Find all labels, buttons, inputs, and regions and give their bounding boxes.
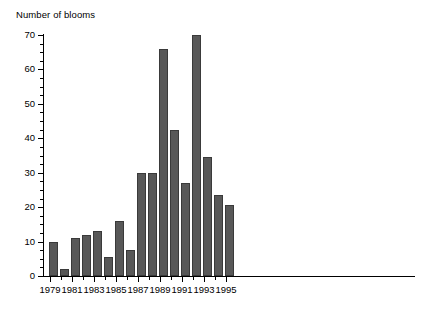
x-tick-minor (61, 277, 62, 280)
y-tick-minor (40, 44, 43, 45)
y-tick-minor (40, 164, 43, 165)
y-tick-label: 10 (24, 237, 35, 247)
y-tick-minor (40, 233, 43, 234)
y-axis-title: Number of blooms (16, 9, 95, 21)
y-tick-minor (40, 87, 43, 88)
bar (214, 195, 224, 276)
y-tick-major (38, 207, 43, 208)
bar (203, 157, 213, 276)
x-tick-major (226, 277, 227, 282)
x-tick-major (116, 277, 117, 282)
y-tick-major (38, 173, 43, 174)
x-tick-label: 1991 (171, 284, 192, 295)
y-tick-minor (40, 95, 43, 96)
x-tick-label: 1985 (105, 284, 126, 295)
y-tick-label: 40 (24, 133, 35, 143)
x-tick-label: 1979 (39, 284, 60, 295)
y-tick-minor (40, 199, 43, 200)
x-tick-label: 1987 (127, 284, 148, 295)
bar-chart: Number of blooms 706050403020100 1979198… (0, 0, 426, 310)
bar (159, 49, 169, 276)
x-tick-minor (171, 277, 172, 280)
bar (93, 231, 103, 276)
bar (71, 238, 81, 276)
x-tick-minor (193, 277, 194, 280)
y-tick-minor (40, 250, 43, 251)
x-tick-minor (105, 277, 106, 280)
bar (126, 250, 136, 276)
y-tick-minor (40, 190, 43, 191)
x-tick-label: 1993 (193, 284, 214, 295)
y-tick-minor (40, 259, 43, 260)
x-tick-label: 1981 (61, 284, 82, 295)
bar (192, 35, 202, 276)
bar (181, 183, 191, 276)
x-tick-label: 1989 (149, 284, 170, 295)
y-tick-minor (40, 112, 43, 113)
bar (225, 205, 235, 276)
x-tick-minor (215, 277, 216, 280)
y-tick-major (38, 104, 43, 105)
x-tick-label: 1995 (215, 284, 236, 295)
x-tick-minor (149, 277, 150, 280)
y-tick-major (38, 138, 43, 139)
y-tick-major (38, 35, 43, 36)
x-tick-major (182, 277, 183, 282)
bar (104, 257, 114, 276)
bar (82, 235, 92, 276)
x-tick-label: 1983 (83, 284, 104, 295)
y-tick-major (38, 276, 43, 277)
y-tick-label: 30 (24, 168, 35, 178)
y-tick-minor (40, 78, 43, 79)
bar (115, 221, 125, 276)
y-tick-label: 50 (24, 99, 35, 109)
y-tick-major (38, 69, 43, 70)
x-tick-minor (83, 277, 84, 280)
y-tick-major (38, 242, 43, 243)
y-tick-minor (40, 130, 43, 131)
y-tick-minor (40, 267, 43, 268)
x-tick-major (160, 277, 161, 282)
x-tick-major (94, 277, 95, 282)
bar (49, 242, 59, 276)
y-tick-minor (40, 121, 43, 122)
x-tick-major (50, 277, 51, 282)
y-tick-minor (40, 181, 43, 182)
y-tick-minor (40, 156, 43, 157)
y-tick-minor (40, 61, 43, 62)
plot-area (44, 35, 414, 276)
bar (148, 173, 158, 276)
y-tick-label: 20 (24, 202, 35, 212)
bar (170, 130, 180, 276)
x-tick-major (204, 277, 205, 282)
y-tick-minor (40, 224, 43, 225)
x-tick-minor (127, 277, 128, 280)
y-tick-minor (40, 147, 43, 148)
x-tick-major (138, 277, 139, 282)
x-tick-major (72, 277, 73, 282)
bar (137, 173, 147, 276)
y-tick-label: 60 (24, 64, 35, 74)
x-axis-line (43, 276, 415, 277)
y-tick-minor (40, 52, 43, 53)
y-tick-label: 0 (30, 271, 35, 281)
bar (60, 269, 70, 276)
y-tick-minor (40, 216, 43, 217)
y-tick-label: 70 (24, 30, 35, 40)
